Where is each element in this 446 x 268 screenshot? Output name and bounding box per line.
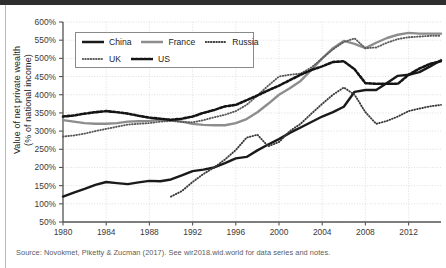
legend-swatch-china-icon [82,37,104,47]
svg-text:300%: 300% [35,126,57,136]
legend-item-uk[interactable]: UK [82,54,121,64]
legend-swatch-us-icon [131,54,153,64]
legend-item-china[interactable]: China [82,37,131,47]
legend-swatch-france-icon [141,37,163,47]
svg-text:1992: 1992 [183,227,202,237]
svg-text:100%: 100% [35,199,57,209]
svg-text:350%: 350% [35,108,57,118]
svg-text:400%: 400% [35,90,57,100]
svg-text:1980: 1980 [54,227,73,237]
svg-text:1996: 1996 [226,227,245,237]
legend-swatch-russia-icon [205,37,227,47]
svg-text:550%: 550% [35,35,57,45]
legend-item-us[interactable]: US [131,54,170,64]
legend-label-uk: UK [109,54,121,64]
chart-area: Value of net private wealth (% of nation… [0,5,446,243]
series-line-russia [171,87,441,196]
series-line-china [63,60,441,196]
legend-label-france: France [168,37,195,47]
svg-text:150%: 150% [35,181,57,191]
svg-text:2004: 2004 [313,227,332,237]
source-note: Source: Novokmet, Piketty & Zucman (2017… [16,248,436,257]
svg-text:1984: 1984 [97,227,116,237]
legend-label-us: US [158,54,170,64]
legend-row-2: UK US [76,50,253,67]
svg-text:250%: 250% [35,144,57,154]
chart-legend: China France Russia UK US [75,32,254,68]
svg-text:1988: 1988 [140,227,159,237]
svg-text:600%: 600% [35,17,57,27]
figure-container: Value of net private wealth (% of nation… [0,0,446,268]
svg-text:200%: 200% [35,162,57,172]
legend-item-france[interactable]: France [141,37,195,47]
legend-swatch-uk-icon [82,54,104,64]
legend-label-china: China [109,37,131,47]
series-line-us [63,61,441,120]
svg-text:500%: 500% [35,53,57,63]
legend-label-russia: Russia [232,37,258,47]
svg-text:2008: 2008 [356,227,375,237]
svg-text:50%: 50% [39,217,56,227]
svg-text:2000: 2000 [270,227,289,237]
svg-text:2012: 2012 [399,227,418,237]
legend-row-1: China France Russia [76,33,253,50]
source-note-clipped [16,259,436,266]
legend-item-russia[interactable]: Russia [205,37,258,47]
svg-text:450%: 450% [35,72,57,82]
